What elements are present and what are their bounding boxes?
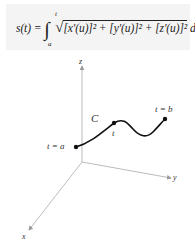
- curve-label: C: [91, 112, 98, 124]
- x-axis-label: x: [22, 232, 26, 241]
- curve-c: [76, 119, 165, 147]
- y-axis: [82, 162, 171, 178]
- point-label-t-b: t = b: [155, 104, 173, 114]
- point-label-t: t: [112, 128, 115, 138]
- point-t-b: [163, 117, 167, 121]
- point-t: [112, 121, 116, 125]
- y-axis-label: y: [173, 173, 177, 182]
- x-axis: [29, 162, 82, 230]
- point-label-t-a: t = a: [47, 141, 65, 151]
- z-axis-label: z: [79, 57, 82, 66]
- space-curve-diagram: [0, 0, 195, 248]
- point-t-a: [74, 145, 78, 149]
